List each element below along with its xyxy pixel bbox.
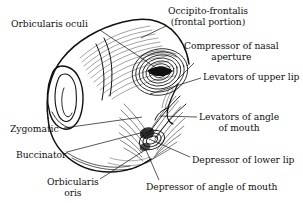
label-line-2: (frontal portion) — [168, 17, 248, 28]
label-orbicularis-oculi: Orbicularis oculi — [11, 19, 88, 30]
leader-buccinator — [67, 132, 144, 152]
label-orbicularis-oris: Orbicularis oris — [47, 177, 99, 198]
leader-compressor-nasal — [172, 63, 194, 85]
label-line-1: Depressor of angle of mouth — [146, 181, 277, 192]
mandible-shading — [108, 157, 151, 166]
frontalis-hatching — [80, 26, 175, 99]
label-line-1: Compressor of nasal — [184, 40, 279, 51]
temple-crease — [96, 38, 112, 100]
label-line-1: Occipito-frontalis — [168, 5, 248, 16]
label-line-1: Levators of angle — [199, 111, 279, 122]
label-line-2: oris — [47, 188, 99, 199]
leader-lines — [64, 26, 201, 180]
label-line-1: Zygomatic — [10, 123, 59, 134]
label-buccinator: Buccinator — [16, 150, 66, 161]
label-depressor-of-lower-lip: Depressor of lower lip — [192, 155, 294, 166]
label-depressor-of-angle-of-mouth: Depressor of angle of mouth — [146, 182, 277, 193]
label-line-2: of mouth — [199, 123, 279, 134]
facial-muscles-illustration — [0, 0, 303, 203]
label-line-1: Orbicularis — [47, 176, 99, 187]
label-levators-of-upper-lip: Levators of upper lip — [203, 72, 299, 83]
leader-orbicularis-oris — [100, 150, 145, 179]
label-line-1: Levators of upper lip — [203, 71, 299, 82]
leader-zygomatic — [64, 117, 142, 128]
head-line-art — [47, 19, 193, 172]
label-line-1: Buccinator — [16, 149, 66, 160]
zygomatic-buccinator-band — [150, 96, 186, 138]
leader-occipito-frontalis — [141, 26, 166, 38]
palpebral-fissure — [148, 67, 172, 75]
label-occipito-frontalis: Occipito-frontalis (frontal portion) — [168, 6, 248, 27]
label-zygomatic: Zygomatic — [10, 124, 59, 135]
label-levators-of-angle-of-mouth: Levators of angle of mouth — [199, 112, 279, 133]
platysma-lines — [66, 152, 132, 170]
label-line-1: Depressor of lower lip — [192, 154, 294, 165]
label-line-2: aperture — [184, 52, 279, 63]
label-line-1: Orbicularis oculi — [11, 18, 88, 29]
label-compressor-of-nasal-aperture: Compressor of nasal aperture — [184, 41, 279, 62]
leader-depressor-angle-mouth — [146, 150, 159, 180]
